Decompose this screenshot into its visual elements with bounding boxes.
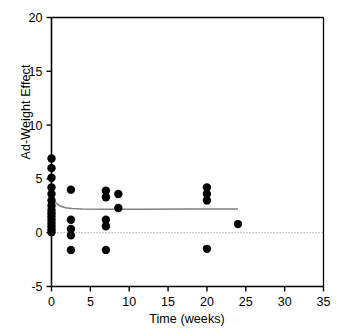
data-point	[47, 154, 55, 162]
data-point	[203, 245, 211, 253]
x-tick-label: 5	[87, 295, 94, 309]
data-points	[47, 154, 242, 254]
y-tick-label: 0	[36, 226, 43, 240]
data-point	[102, 246, 110, 254]
data-point	[47, 228, 55, 236]
axis-ticks	[47, 18, 324, 292]
y-tick-label: 5	[36, 172, 43, 186]
plot-canvas: 05101520253035-505101520	[0, 0, 344, 336]
data-point	[234, 220, 242, 228]
x-axis-label: Time (weeks)	[51, 312, 323, 326]
data-point	[67, 246, 75, 254]
data-point	[67, 231, 75, 239]
x-tick-label: 0	[48, 295, 55, 309]
data-point	[114, 204, 122, 212]
x-tick-label: 35	[317, 295, 331, 309]
x-tick-label: 20	[200, 295, 214, 309]
data-point	[114, 190, 122, 198]
x-tick-label: 25	[239, 295, 253, 309]
x-tick-label: 30	[278, 295, 292, 309]
y-axis-label: Ad-Weight Effect	[19, 32, 33, 192]
x-tick-label: 10	[122, 295, 136, 309]
x-tick-label: 15	[161, 295, 175, 309]
data-point	[67, 216, 75, 224]
data-point	[203, 196, 211, 204]
data-point	[102, 222, 110, 230]
data-point	[102, 193, 110, 201]
data-point	[47, 164, 55, 172]
data-point	[67, 185, 75, 193]
axis-tick-labels: 05101520253035-505101520	[29, 11, 331, 309]
scatter-plot-figure: 05101520253035-505101520 Ad-Weight Effec…	[0, 0, 344, 336]
plot-frame	[52, 18, 324, 287]
y-tick-label: -5	[31, 280, 42, 294]
data-point	[47, 174, 55, 182]
y-tick-label: 20	[29, 11, 43, 25]
